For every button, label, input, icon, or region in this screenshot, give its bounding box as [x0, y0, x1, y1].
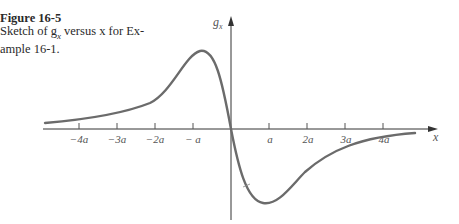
tick-label: − a: [185, 133, 201, 145]
tick-label: −2a: [146, 133, 165, 145]
y-axis-arrow-icon: [228, 16, 234, 26]
tick-label: −3a: [108, 133, 127, 145]
tick-label: 2a: [303, 133, 315, 145]
tick-label: −4a: [70, 133, 89, 145]
chart: −4a −3a −2a − a a 2a 3a 4a x gx: [0, 0, 459, 224]
tick-label: a: [267, 133, 273, 145]
x-axis-label: x: [432, 130, 439, 144]
tick-label: 3a: [340, 133, 353, 145]
y-axis-label: gx: [213, 15, 223, 31]
y-axis-label-sub: x: [218, 22, 223, 31]
gx-curve: [45, 51, 415, 203]
